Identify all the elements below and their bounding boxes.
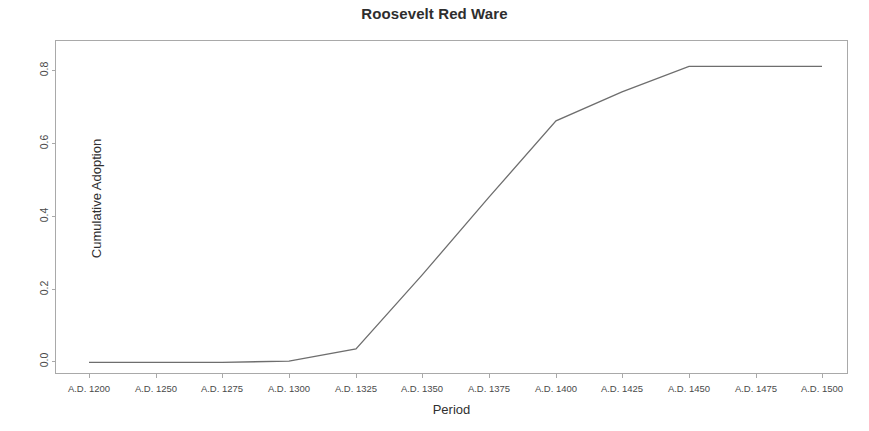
y-tick-text-2: 0.4 [39, 208, 51, 223]
data-line-svg [56, 41, 849, 375]
y-tick-text-4: 0.8 [39, 62, 51, 77]
series-line-cumulative-adoption [89, 66, 822, 362]
y-tick-text-3: 0.6 [39, 135, 51, 150]
y-tick-label-3: 0.6 [12, 136, 52, 148]
x-tick-label-11: A.D. 1500 [782, 383, 862, 394]
chart-figure: Roosevelt Red Ware Cumulative Adoption 0… [0, 0, 869, 431]
plot-area: Cumulative Adoption 0.0 0.2 0.4 0.6 0.8 … [55, 40, 848, 374]
x-axis-label: Period [55, 402, 848, 417]
y-tick-label-1: 0.2 [12, 282, 52, 294]
chart-title: Roosevelt Red Ware [0, 5, 869, 22]
y-tick-label-2: 0.4 [12, 209, 52, 221]
y-tick-text-1: 0.2 [39, 281, 51, 296]
y-tick-label-0: 0.0 [12, 354, 52, 366]
y-tick-text-0: 0.0 [39, 353, 51, 368]
y-tick-label-4: 0.8 [12, 63, 52, 75]
